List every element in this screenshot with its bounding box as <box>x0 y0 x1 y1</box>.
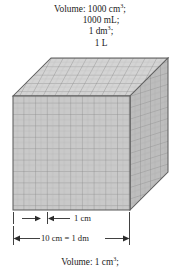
bottom-caption: Volume: 1 cm3; <box>0 257 180 268</box>
cube-drawing <box>0 0 180 272</box>
bottom-caption-text: Volume: 1 cm <box>61 257 113 267</box>
cube-front-face <box>13 96 130 210</box>
bottom-caption-post: ; <box>116 257 119 267</box>
dimension-indicator-1cm <box>14 212 71 224</box>
label-unit-cell: 1 cm <box>74 213 91 223</box>
label-full-edge: 10 cm = 1 dm <box>41 233 89 243</box>
volume-cube-figure: Volume: 1000 cm3; 1000 mL; 1 dm3; 1 L <box>0 0 180 272</box>
